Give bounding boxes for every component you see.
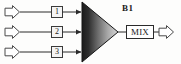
input-arrow-1 [5,6,20,19]
mixer-label: MIX [127,28,153,37]
input-arrow-2 [5,26,20,39]
input-arrow-3 [5,46,20,59]
input-block-2-label: 2 [52,28,63,36]
block-diagram-canvas: 1 2 3 B1 MIX [0,0,181,64]
diagram-vector-layer [0,0,181,64]
amplifier-triangle [82,2,118,62]
input-block-1-label: 1 [52,8,63,16]
input-block-3-label: 3 [52,48,63,56]
output-arrow [159,26,174,39]
amplifier-label: B1 [122,4,133,13]
